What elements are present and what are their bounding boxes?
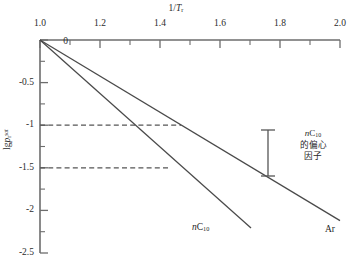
series-line-nc10 bbox=[40, 40, 251, 228]
y-tick-label: -1 bbox=[2, 120, 34, 130]
y-tick-label: 0 bbox=[36, 37, 68, 47]
x-tick-label: 1.4 bbox=[154, 19, 166, 29]
annotation-line-2: 的偏心 bbox=[278, 140, 348, 151]
x-tick-label: 1.6 bbox=[214, 19, 226, 29]
annotation-line-3: 因子 bbox=[278, 151, 348, 162]
x-tick-label: 1.8 bbox=[274, 19, 286, 29]
series-label-nc10: nC10 bbox=[192, 222, 209, 232]
vapor-pressure-chart: 1/Tr lgprsat 1.0 1.2 1.4 1.6 1.8 2.0 0 -… bbox=[0, 0, 353, 266]
acentric-factor-annotation: nC10 的偏心 因子 bbox=[278, 128, 348, 162]
series-label-ar: Ar bbox=[325, 224, 335, 234]
x-tick-label: 1.0 bbox=[34, 19, 46, 29]
y-tick-label: -2 bbox=[2, 206, 34, 216]
annotation-line-1: nC10 bbox=[278, 128, 348, 140]
x-tick-label: 1.2 bbox=[94, 19, 106, 29]
acentric-factor-bracket bbox=[261, 130, 275, 176]
y-tick-label: -1.5 bbox=[2, 163, 34, 173]
x-axis-title: 1/Tr bbox=[169, 3, 184, 13]
y-tick-label: -0.5 bbox=[2, 78, 34, 88]
y-tick-label: -2.5 bbox=[2, 248, 34, 258]
x-tick-label: 2.0 bbox=[334, 19, 346, 29]
y-axis-title: lgprsat bbox=[2, 129, 12, 150]
